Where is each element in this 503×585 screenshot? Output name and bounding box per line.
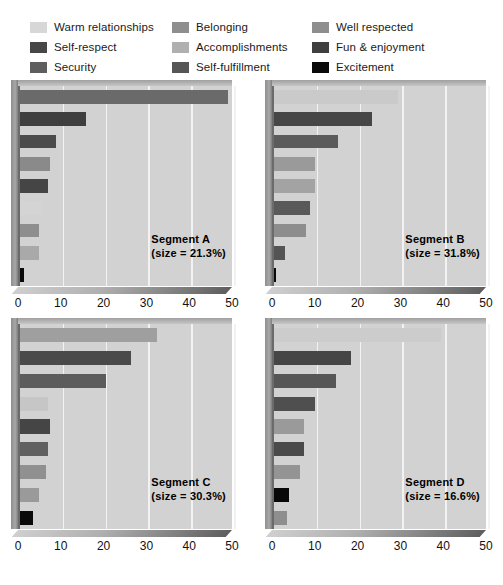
- panel-caption: Segment D (size = 16.6%): [405, 475, 480, 503]
- plot-area-wrapper: Segment C (size = 30.3%) 01020304050: [18, 324, 232, 529]
- axis-tick-label: 20: [97, 296, 110, 310]
- bar-row: [274, 112, 486, 126]
- grid-line: [488, 324, 490, 529]
- bar: [274, 135, 338, 149]
- chart-panel-segment-a: Segment A (size = 21.3%) 01020304050: [0, 82, 248, 317]
- legend-item-security: Security: [30, 58, 154, 76]
- bar: [274, 179, 315, 193]
- x-axis-ticks: 01020304050: [18, 539, 250, 555]
- x-axis-ticks: 01020304050: [272, 296, 503, 312]
- panel-left-bevel: [11, 80, 18, 286]
- axis-tick-label: 30: [394, 296, 407, 310]
- bar-row: [274, 351, 486, 365]
- chart-panel-segment-d: Segment D (size = 16.6%) 01020304050: [254, 320, 502, 582]
- x-axis: [266, 530, 486, 537]
- plot-area-wrapper: Segment D (size = 16.6%) 01020304050: [272, 324, 486, 529]
- axis-tick-label: 30: [394, 539, 407, 553]
- x-axis: [266, 287, 486, 294]
- panel-caption: Segment C (size = 30.3%): [151, 475, 226, 503]
- grid-line: [488, 86, 490, 286]
- legend-label: Self-respect: [54, 41, 117, 53]
- panel-left-bevel: [11, 318, 18, 529]
- axis-tick-label: 0: [15, 539, 22, 553]
- axis-tick-label: 20: [351, 539, 364, 553]
- axis-tick-label: 40: [183, 296, 196, 310]
- axis-tick-label: 50: [479, 296, 492, 310]
- legend-item-self-respect: Self-respect: [30, 38, 154, 56]
- bar-row: [274, 90, 486, 104]
- bar-row: [20, 268, 232, 282]
- panel-title: Segment A: [151, 233, 210, 245]
- bar: [20, 465, 46, 479]
- legend-swatch-icon: [30, 22, 47, 33]
- legend-column-1: Warm relationships Self-respect Security: [30, 18, 154, 78]
- axis-tick-label: 10: [308, 539, 321, 553]
- bar: [20, 112, 86, 126]
- x-axis: [12, 530, 232, 537]
- axis-tick-label: 40: [183, 539, 196, 553]
- legend-label: Self-fulfillment: [196, 61, 270, 73]
- x-axis-ticks: 01020304050: [18, 296, 250, 312]
- bar-row: [274, 511, 486, 525]
- bar-row: [274, 268, 486, 282]
- bar: [20, 179, 48, 193]
- bar-row: [274, 374, 486, 388]
- bar: [274, 246, 285, 260]
- legend-item-warm-relationships: Warm relationships: [30, 18, 154, 36]
- bar: [20, 328, 157, 342]
- axis-tick-label: 50: [225, 539, 238, 553]
- legend-swatch-icon: [312, 22, 329, 33]
- bar: [274, 224, 306, 238]
- bar-row: [20, 351, 232, 365]
- bar: [20, 201, 41, 215]
- bar-row: [274, 157, 486, 171]
- bar-row: [20, 442, 232, 456]
- bar-row: [20, 157, 232, 171]
- axis-tick-label: 20: [351, 296, 364, 310]
- legend-label: Fun & enjoyment: [336, 41, 424, 53]
- bar-row: [274, 201, 486, 215]
- bar-row: [274, 179, 486, 193]
- bar: [20, 488, 39, 502]
- bar-row: [20, 511, 232, 525]
- legend-swatch-icon: [312, 42, 329, 53]
- bar: [20, 268, 24, 282]
- bar-row: [20, 179, 232, 193]
- bar: [20, 135, 56, 149]
- bar: [274, 397, 315, 411]
- bar: [20, 442, 48, 456]
- bar: [274, 112, 372, 126]
- bar: [274, 419, 304, 433]
- legend-item-fun-and-enjoyment: Fun & enjoyment: [312, 38, 424, 56]
- legend-column-2: Belonging Accomplishments Self-fulfillme…: [172, 18, 288, 78]
- bar: [274, 442, 304, 456]
- axis-tick-label: 10: [54, 296, 67, 310]
- axis-tick-label: 0: [269, 296, 276, 310]
- axis-tick-label: 30: [140, 296, 153, 310]
- bar: [20, 419, 50, 433]
- axis-tick-label: 20: [97, 539, 110, 553]
- panel-subtitle: (size = 31.8%): [405, 246, 480, 260]
- bar: [20, 90, 228, 104]
- bar-row: [20, 112, 232, 126]
- legend-item-accomplishments: Accomplishments: [172, 38, 288, 56]
- panel-caption: Segment A (size = 21.3%): [151, 232, 226, 260]
- plot-area-wrapper: Segment A (size = 21.3%) 01020304050: [18, 86, 232, 286]
- legend-label: Excitement: [336, 61, 394, 73]
- bar: [274, 328, 441, 342]
- axis-tick-label: 40: [437, 296, 450, 310]
- panel-left-bevel: [265, 80, 272, 286]
- legend-label: Belonging: [196, 21, 248, 33]
- bar-row: [274, 419, 486, 433]
- bar: [20, 397, 48, 411]
- bar: [274, 157, 315, 171]
- panel-title: Segment C: [151, 476, 210, 488]
- legend-item-excitement: Excitement: [312, 58, 424, 76]
- plot-area: Segment B (size = 31.8%): [272, 86, 486, 286]
- legend-swatch-icon: [30, 42, 47, 53]
- axis-tick-label: 10: [308, 296, 321, 310]
- grid-line: [234, 86, 236, 286]
- panel-caption: Segment B (size = 31.8%): [405, 232, 480, 260]
- axis-tick-label: 0: [269, 539, 276, 553]
- bar: [274, 511, 287, 525]
